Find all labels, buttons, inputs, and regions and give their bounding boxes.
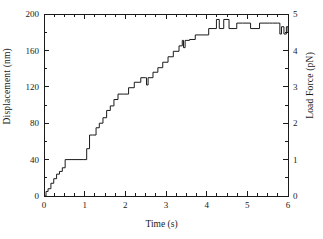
- svg-text:5: 5: [245, 200, 250, 210]
- data-series-displacement: [44, 19, 288, 196]
- svg-text:3: 3: [293, 82, 298, 92]
- svg-text:160: 160: [26, 46, 40, 56]
- axes-frame: [44, 14, 288, 196]
- svg-text:120: 120: [26, 82, 40, 92]
- svg-text:4: 4: [204, 200, 209, 210]
- svg-text:3: 3: [164, 200, 169, 210]
- svg-text:0: 0: [293, 191, 298, 201]
- chart-plot: 012345604080120160200012345: [0, 0, 323, 239]
- svg-text:0: 0: [35, 191, 40, 201]
- y-axis-left-label: Displacement (nm): [2, 48, 12, 124]
- svg-text:1: 1: [293, 155, 298, 165]
- svg-text:200: 200: [26, 9, 40, 19]
- x-axis-label: Time (s): [0, 219, 323, 229]
- svg-text:6: 6: [286, 200, 291, 210]
- svg-text:5: 5: [293, 9, 298, 19]
- y-axis-right-label: Load Force (pN): [305, 52, 315, 119]
- svg-text:2: 2: [123, 200, 128, 210]
- svg-text:0: 0: [42, 200, 47, 210]
- svg-text:80: 80: [30, 118, 40, 128]
- svg-text:1: 1: [82, 200, 87, 210]
- figure-container: Displacement (nm) Load Force (pN) Time (…: [0, 0, 323, 239]
- svg-text:4: 4: [293, 46, 298, 56]
- svg-text:40: 40: [30, 155, 40, 165]
- axis-ticks: [44, 14, 288, 196]
- axis-tick-labels: 012345604080120160200012345: [26, 9, 299, 210]
- svg-text:2: 2: [293, 118, 298, 128]
